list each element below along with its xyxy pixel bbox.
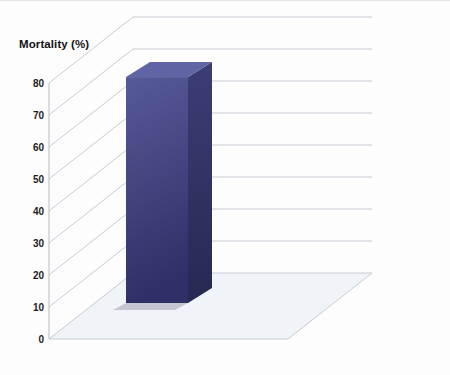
gridline-diagonal [49, 81, 133, 147]
bar-moderate-severe-lt25 [113, 62, 212, 310]
gridline-diagonal [49, 113, 133, 179]
y-axis-tick-label: 10 [33, 302, 45, 313]
y-axis-tick-label: 60 [33, 142, 45, 153]
gridline-diagonal [49, 209, 133, 275]
chart-area: Mortality (%) 0102030405060708070.6(12/1… [0, 0, 450, 375]
gridline-diagonal [49, 145, 133, 211]
y-axis-tick-label: 40 [33, 206, 45, 217]
bar-side-face [188, 62, 212, 303]
gridline-diagonal [49, 49, 133, 115]
mortality-3d-bar-chart: 0102030405060708070.6(12/17) [0, 1, 450, 375]
bar-front-face [126, 77, 188, 303]
y-axis-title: Mortality (%) [19, 38, 89, 50]
gridline-diagonal [49, 177, 133, 243]
y-axis-tick-label: 20 [33, 270, 45, 281]
gridline-diagonal [49, 17, 133, 83]
y-axis-tick-label: 0 [38, 334, 44, 345]
y-axis-tick-label: 50 [33, 174, 45, 185]
bar-shadow [113, 303, 188, 310]
y-axis-tick-label: 70 [33, 110, 45, 121]
y-axis-tick-label: 30 [33, 238, 45, 249]
y-axis-tick-label: 80 [33, 78, 45, 89]
